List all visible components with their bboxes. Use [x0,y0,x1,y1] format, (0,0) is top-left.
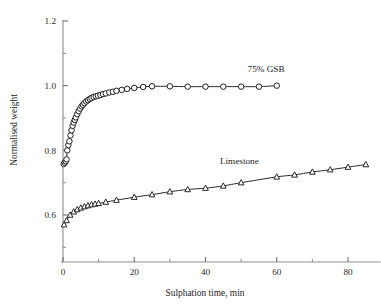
data-point-circle [124,86,130,92]
series-curve [64,165,366,225]
y-tick-label: 0.8 [45,146,57,156]
x-axis-tick-labels: 020406080 [61,267,353,277]
data-curves [64,86,366,225]
x-axis-title: Sulphation time, min [166,288,245,298]
data-point-triangle [363,161,369,166]
y-axis-title: Normalised weight [9,94,19,166]
x-tick-label: 80 [343,267,353,277]
data-point-circle [119,87,125,93]
y-tick-label: 1.2 [45,16,57,26]
data-point-circle [149,84,155,90]
series-annotations: 75% GSBLimestone [220,64,285,166]
chart-plot-area: 020406080 0.60.81.01.2 75% GSBLimestone … [0,0,381,308]
data-point-circle [132,85,138,91]
x-tick-label: 60 [272,267,282,277]
data-point-circle [140,84,146,90]
data-point-circle [185,84,191,90]
series-label-limestone: Limestone [220,156,259,166]
series-label-gsb: 75% GSB [248,64,285,74]
data-point-circle [68,133,74,139]
y-tick-label: 1.0 [45,81,57,91]
y-tick-label: 0.6 [45,210,57,220]
y-axis-ticks [63,21,68,247]
x-tick-label: 0 [61,267,66,277]
y-axis-tick-labels: 0.60.81.01.2 [45,16,57,220]
x-tick-label: 20 [130,267,140,277]
data-point-circle [221,84,227,90]
data-point-circle [67,139,73,145]
data-point-circle [274,83,280,89]
data-point-circle [256,84,262,90]
x-axis-ticks [63,257,348,262]
data-point-circle [64,157,70,163]
chart-axes [61,20,381,262]
data-point-circle [65,148,71,154]
data-point-circle [203,84,209,90]
chart-figure: 020406080 0.60.81.01.2 75% GSBLimestone … [0,0,381,308]
data-point-circle [114,88,120,94]
x-tick-label: 40 [201,267,211,277]
data-point-circle [238,84,244,90]
data-point-circle [167,84,173,90]
data-markers [61,83,369,227]
